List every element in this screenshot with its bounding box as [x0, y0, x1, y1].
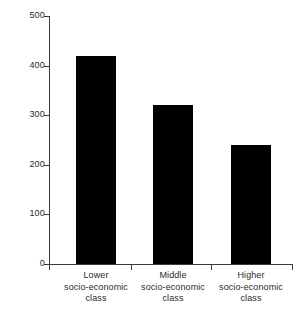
y-axis-tick-label: 0	[40, 258, 45, 269]
bar-chart-figure: 0100200300400500 Lowersocio-economicclas…	[0, 0, 307, 320]
y-axis-line	[49, 16, 50, 265]
y-axis-tick-label: 500	[29, 10, 45, 21]
x-axis-category-label-line: class	[203, 293, 299, 305]
y-axis-tick-label: 100	[29, 208, 45, 219]
y-axis-tick-label: 400	[29, 60, 45, 71]
bar	[153, 105, 193, 264]
x-axis-category-label-line: socio-economic	[203, 282, 299, 294]
y-axis-tick-label: 300	[29, 109, 45, 120]
y-axis-tick-label: 200	[29, 159, 45, 170]
bar	[231, 145, 271, 264]
bar	[76, 56, 116, 264]
x-axis-category-label-line: Higher	[203, 270, 299, 282]
x-axis-line	[49, 264, 293, 265]
x-axis-category-label: Highersocio-economicclass	[203, 270, 299, 305]
